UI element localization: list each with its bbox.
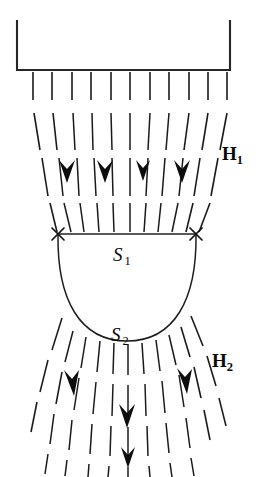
field-lines-upper [33, 72, 227, 232]
field-line-lower-row4 [45, 454, 194, 477]
label-field-lower-symbol: H [212, 350, 227, 371]
pole-piece-plate [17, 21, 230, 70]
label-field-upper-symbol: H [222, 143, 237, 164]
label-field-lower: H2 [212, 350, 233, 374]
field-line-segment-row4 [50, 203, 210, 232]
label-surface-s2: S2 [111, 324, 129, 348]
field-line-segment-row2 [34, 113, 227, 150]
label-surface-s2-subscript: 2 [123, 334, 129, 348]
label-field-upper-subscript: 1 [237, 153, 243, 167]
label-surface-s1-symbol: S [113, 244, 123, 265]
boundary-arc-s2 [58, 234, 196, 341]
label-surface-s1: S1 [113, 244, 131, 268]
field-line-segment-row1 [33, 72, 227, 100]
figure-root: H1 H2 S1 S2 [0, 0, 266, 477]
label-surface-s1-subscript: 1 [125, 254, 131, 268]
label-field-lower-subscript: 2 [227, 360, 233, 374]
diagram-labels: H1 H2 S1 S2 [111, 143, 243, 374]
label-surface-s2-symbol: S [111, 324, 121, 345]
field-line-diagram: H1 H2 S1 S2 [0, 0, 266, 477]
label-field-upper: H1 [222, 143, 243, 167]
boundary-surfaces [52, 228, 202, 341]
